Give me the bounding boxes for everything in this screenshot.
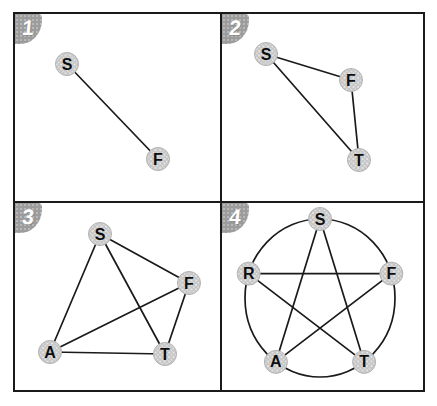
node-label-T: T bbox=[160, 346, 170, 363]
edge-R-T bbox=[249, 274, 364, 362]
panel-2-number: 2 bbox=[228, 17, 242, 38]
panel-3: 3 SFAT bbox=[15, 203, 220, 390]
edge-S-F bbox=[67, 64, 158, 159]
edge-S-T bbox=[320, 219, 364, 362]
panel-2: 2 SFT bbox=[222, 14, 423, 201]
node-label-A: A bbox=[270, 353, 282, 370]
node-label-F: F bbox=[346, 72, 356, 89]
node-label-S: S bbox=[315, 211, 326, 228]
graph-canvas-2: SFT bbox=[222, 14, 423, 201]
node-label-F: F bbox=[184, 275, 194, 292]
edge-S-A bbox=[276, 219, 320, 362]
edge-A-T bbox=[50, 352, 165, 354]
panel-1: 1 SF bbox=[15, 14, 220, 201]
node-label-R: R bbox=[243, 265, 255, 282]
edge-A-F bbox=[50, 283, 189, 352]
edge-F-T bbox=[351, 80, 359, 160]
graph-canvas-3: SFAT bbox=[15, 203, 220, 390]
panel-4-number: 4 bbox=[228, 206, 242, 227]
node-label-A: A bbox=[44, 344, 56, 361]
panel-1-number: 1 bbox=[21, 17, 35, 38]
node-label-F: F bbox=[153, 151, 163, 168]
panel-4: 4 SRFAT bbox=[222, 203, 423, 390]
graph-canvas-4: SRFAT bbox=[222, 203, 423, 390]
edge-A-F bbox=[276, 274, 391, 362]
node-label-S: S bbox=[95, 226, 106, 243]
panel-grid: 1 SF 2 SFT 3 SFAT 4 SRFAT bbox=[13, 12, 425, 392]
node-label-S: S bbox=[261, 46, 272, 63]
circumscribed-circle bbox=[245, 219, 395, 377]
panel-3-number: 3 bbox=[21, 206, 35, 227]
node-label-S: S bbox=[62, 56, 73, 73]
figure-four-graphs: 1 SF 2 SFT 3 SFAT 4 SRFAT bbox=[0, 0, 437, 406]
edge-S-A bbox=[50, 234, 100, 352]
node-label-T: T bbox=[354, 152, 364, 169]
graph-canvas-1: SF bbox=[15, 14, 220, 201]
edge-S-F bbox=[266, 54, 351, 80]
node-label-F: F bbox=[386, 265, 396, 282]
node-label-T: T bbox=[359, 353, 369, 370]
